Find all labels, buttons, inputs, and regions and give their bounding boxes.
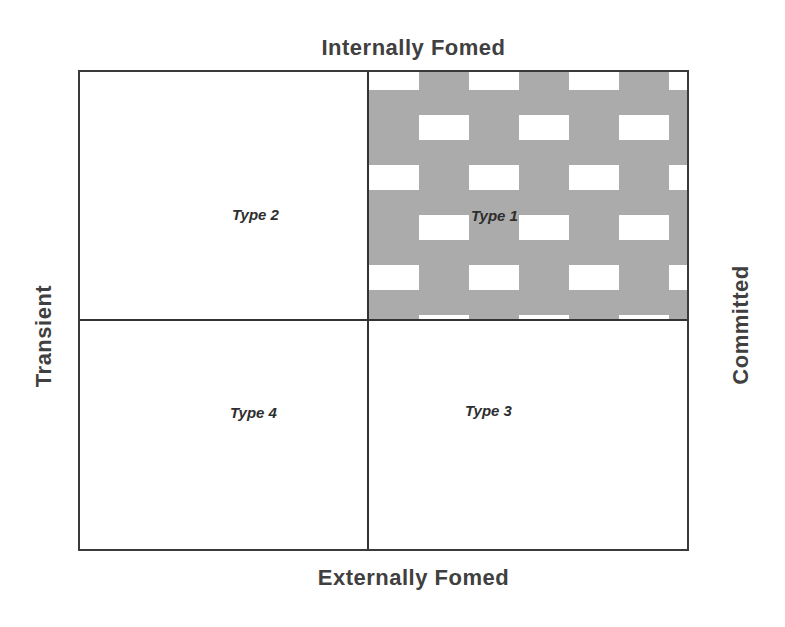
axis-label-right: Committed <box>728 265 754 384</box>
pattern-brick <box>369 265 419 290</box>
quadrant-type-2: Type 2 <box>80 72 369 321</box>
pattern-brick <box>569 265 619 290</box>
pattern-brick <box>669 265 687 290</box>
pattern-brick <box>569 165 619 190</box>
pattern-brick <box>519 215 569 240</box>
pattern-brick <box>469 265 519 290</box>
axis-label-top: Internally Fomed <box>0 35 785 61</box>
pattern-brick <box>619 215 669 240</box>
quadrant-label-type-4: Type 4 <box>230 404 277 421</box>
vertical-divider <box>367 72 369 549</box>
quadrant-label-type-3: Type 3 <box>465 402 512 419</box>
pattern-brick <box>519 115 569 140</box>
matrix-grid: Type 2 Type 1 Type 4 Type 3 <box>78 70 689 551</box>
pattern-brick <box>369 72 419 90</box>
quadrant-label-type-1: Type 1 <box>471 207 518 224</box>
pattern-brick <box>469 72 519 90</box>
pattern-brick <box>419 115 469 140</box>
pattern-brick <box>569 72 619 90</box>
pattern-brick <box>419 215 469 240</box>
axis-label-bottom: Externally Fomed <box>0 565 785 591</box>
pattern-brick <box>469 165 519 190</box>
pattern-brick <box>669 165 687 190</box>
horizontal-divider <box>80 319 687 321</box>
quadrant-label-type-2: Type 2 <box>232 206 279 223</box>
pattern-brick <box>669 72 687 90</box>
pattern-brick <box>369 165 419 190</box>
axis-label-left: Transient <box>31 285 57 387</box>
quadrant-type-4: Type 4 <box>80 321 369 549</box>
quadrant-type-3: Type 3 <box>369 321 687 549</box>
quadrant-type-1: Type 1 <box>369 72 687 321</box>
pattern-brick <box>619 115 669 140</box>
